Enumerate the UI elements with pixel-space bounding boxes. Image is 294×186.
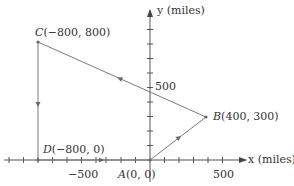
point-d-coords: (−800, 0)	[52, 143, 105, 156]
point-a-label: A(0, 0)	[118, 169, 156, 180]
x-tick-500: 500	[213, 169, 234, 180]
x-axis-label-text: x (miles)	[248, 153, 294, 166]
y-axis-label-text: y (miles)	[157, 4, 205, 17]
y-axis-label: y (miles)	[157, 5, 205, 16]
point-b-marker	[204, 115, 207, 118]
point-c-label: C(−800, 800)	[35, 27, 110, 38]
arrow-cd-icon	[36, 102, 41, 107]
point-a-marker	[148, 158, 151, 161]
point-d-marker	[36, 158, 39, 161]
point-c-marker	[36, 40, 39, 43]
y-tick-500: 500	[155, 81, 176, 92]
point-a-letter: A	[118, 168, 126, 181]
x-axis-label: x (miles)	[248, 154, 294, 165]
arrow-bc-icon	[116, 75, 123, 82]
point-c-coords: (−800, 800)	[43, 26, 110, 39]
point-b-coords: (400, 300)	[221, 110, 279, 123]
point-a-coords: (0, 0)	[126, 168, 156, 181]
point-b-letter: B	[213, 110, 221, 123]
arrow-da-icon	[99, 158, 104, 163]
y-axis	[147, 10, 153, 182]
x-tick-neg-500: −500	[68, 169, 98, 180]
point-d-label: D(−800, 0)	[43, 144, 105, 155]
point-b-label: B(400, 300)	[213, 111, 279, 122]
coordinate-diagram: y (miles) x (miles) 500 500 −500 C(−800,…	[0, 0, 294, 186]
point-d-letter: D	[43, 143, 52, 156]
